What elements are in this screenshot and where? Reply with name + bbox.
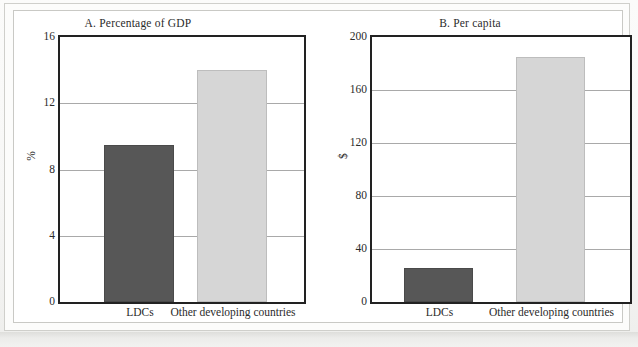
panel-a-gridline-12: 12 [60, 103, 304, 104]
panel-a-bar-other-developing-countries: Other developing countries [197, 70, 267, 302]
panel-b-bar-other-developing-countries: Other developing countries [516, 57, 585, 302]
panel-b-bar-ldcs: LDCs [404, 268, 473, 303]
panel-a-y-axis-label: % [25, 151, 37, 161]
panel-a-ytick-0: 0 [49, 296, 55, 308]
panel-b-xlabel-ldcs: LDCs [426, 306, 453, 318]
panel-a-plot-area: 16 12 8 4 0 LDCs Other [58, 35, 306, 304]
panel-b-ytick-120: 120 [350, 137, 367, 149]
panel-b-gridline-200: 200 [372, 37, 630, 38]
panel-b-plot-area: 200 160 120 80 40 0 LDCs [370, 35, 632, 304]
panel-a-gridline-16: 16 [60, 37, 304, 38]
panel-b-gridline-0: 0 [372, 302, 630, 303]
panel-a-xlabel-other-developing-countries: Other developing countries [170, 306, 295, 318]
panel-a-gridline-0: 0 [60, 302, 304, 303]
figure-page: A. Percentage of GDP % 16 12 8 4 0 [0, 0, 638, 347]
panel-a-xlabel-ldcs: LDCs [126, 306, 153, 318]
panel-b-title: B. Per capita [310, 17, 630, 29]
panel-a-gridline-4: 4 [60, 236, 304, 237]
panel-b-gridline-40: 40 [372, 249, 630, 250]
panel-b-gridline-120: 120 [372, 143, 630, 144]
panel-b-gridline-80: 80 [372, 196, 630, 197]
panel-a-gridline-8: 8 [60, 170, 304, 171]
panel-b-gridline-160: 160 [372, 90, 630, 91]
panel-a: A. Percentage of GDP % 16 12 8 4 0 [0, 0, 320, 347]
panel-a-title: A. Percentage of GDP [0, 17, 298, 29]
panel-b-ytick-40: 40 [356, 243, 368, 255]
panel-b: B. Per capita $ 200 160 120 80 40 [318, 0, 638, 347]
panel-a-ytick-12: 12 [44, 98, 56, 110]
panel-b-ytick-200: 200 [350, 31, 367, 43]
chart-panels: A. Percentage of GDP % 16 12 8 4 0 [0, 0, 638, 347]
panel-a-ytick-16: 16 [44, 31, 56, 43]
panel-a-bar-ldcs: LDCs [104, 145, 174, 303]
panel-b-ytick-80: 80 [356, 190, 368, 202]
panel-b-ytick-0: 0 [361, 296, 367, 308]
panel-b-xlabel-other-developing-countries: Other developing countries [489, 306, 614, 318]
panel-a-ytick-4: 4 [49, 230, 55, 242]
panel-a-ytick-8: 8 [49, 164, 55, 176]
panel-b-ytick-160: 160 [350, 84, 367, 96]
panel-b-y-axis-label: $ [337, 153, 349, 159]
